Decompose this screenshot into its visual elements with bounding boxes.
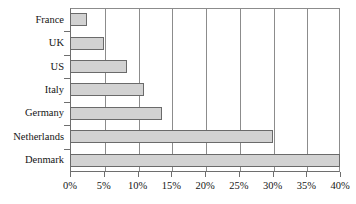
x-tick-35% bbox=[306, 172, 307, 177]
category-label-denmark: Denmark bbox=[0, 154, 64, 165]
bar-row bbox=[70, 55, 340, 78]
x-tick-10% bbox=[138, 172, 139, 177]
x-tick-40% bbox=[340, 172, 341, 177]
bar-row bbox=[70, 8, 340, 31]
x-tick-30% bbox=[273, 172, 274, 177]
bar-chart: FranceUKUSItalyGermanyNetherlandsDenmark… bbox=[0, 0, 356, 204]
bar-denmark bbox=[70, 154, 340, 167]
category-tick bbox=[64, 149, 70, 150]
bar-germany bbox=[70, 107, 162, 120]
category-label-germany: Germany bbox=[0, 107, 64, 118]
bar-row bbox=[70, 31, 340, 54]
bar-netherlands bbox=[70, 130, 273, 143]
x-tick-0% bbox=[70, 172, 71, 177]
bar-france bbox=[70, 13, 87, 26]
category-tick bbox=[64, 125, 70, 126]
category-label-us: US bbox=[0, 61, 64, 72]
category-label-france: France bbox=[0, 14, 64, 25]
bar-row bbox=[70, 125, 340, 148]
category-label-uk: UK bbox=[0, 37, 64, 48]
category-tick bbox=[64, 78, 70, 79]
bar-uk bbox=[70, 37, 104, 50]
category-label-netherlands: Netherlands bbox=[0, 131, 64, 142]
category-tick bbox=[64, 31, 70, 32]
bar-row bbox=[70, 102, 340, 125]
x-tick-15% bbox=[171, 172, 172, 177]
x-tick-5% bbox=[104, 172, 105, 177]
x-axis-label-40%: 40% bbox=[317, 180, 356, 192]
category-tick bbox=[64, 102, 70, 103]
x-tick-20% bbox=[205, 172, 206, 177]
bar-row bbox=[70, 149, 340, 172]
x-tick-25% bbox=[239, 172, 240, 177]
bar-row bbox=[70, 78, 340, 101]
bar-us bbox=[70, 60, 127, 73]
bar-italy bbox=[70, 83, 144, 96]
category-label-italy: Italy bbox=[0, 84, 64, 95]
category-tick bbox=[64, 55, 70, 56]
